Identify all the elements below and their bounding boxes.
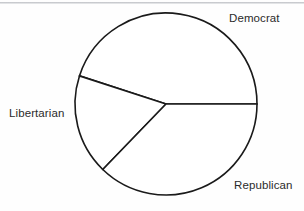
pie-label-libertarian: Libertarian [9,107,64,120]
pie-label-republican: Republican [234,179,293,192]
pie-label-democrat: Democrat [229,12,280,25]
pie-slice-group [75,13,257,195]
pie-chart-figure: Democrat Libertarian Republican [0,0,304,211]
